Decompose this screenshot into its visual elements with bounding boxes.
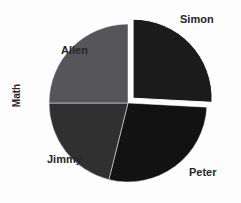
pie-slice-label-allen: Allen <box>61 44 88 56</box>
pie-chart: Simon Allen Jimmy Peter Math <box>0 0 241 203</box>
pie-slice-simon[interactable] <box>133 19 212 102</box>
pie-slice-allen[interactable] <box>49 24 128 103</box>
pie-slice-label-simon: Simon <box>180 13 214 25</box>
pie-slice-label-jimmy: Jimmy <box>47 153 82 165</box>
pie-slice-label-peter: Peter <box>189 166 217 178</box>
chart-series-title: Math <box>11 74 22 118</box>
